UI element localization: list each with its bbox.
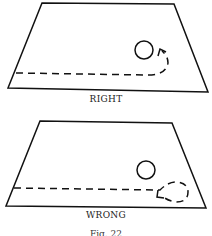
ball-icon bbox=[135, 41, 153, 59]
table-outline bbox=[8, 3, 208, 92]
arrowhead-icon bbox=[157, 190, 164, 198]
arrowhead-icon bbox=[158, 49, 166, 56]
table-outline bbox=[6, 121, 206, 208]
diagram-right: RIGHT bbox=[0, 0, 212, 118]
dashed-path bbox=[16, 51, 168, 75]
diagram-wrong: WRONG bbox=[0, 118, 212, 236]
dashed-path bbox=[14, 182, 188, 202]
ball-icon bbox=[137, 161, 155, 179]
panel-label-wrong: WRONG bbox=[0, 210, 212, 220]
panel-label-right: RIGHT bbox=[0, 94, 212, 104]
figure-caption: Fig. 22 bbox=[0, 229, 212, 236]
